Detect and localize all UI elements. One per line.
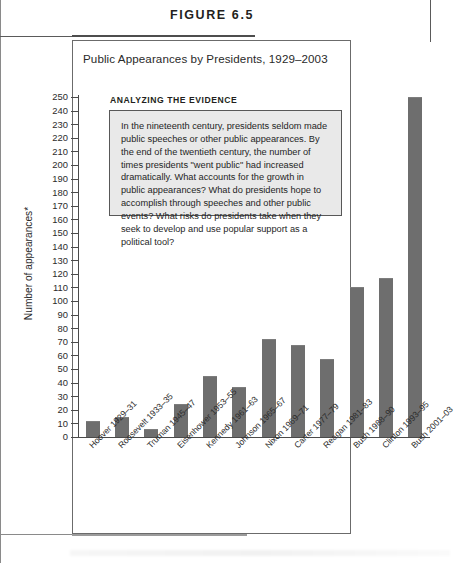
y-axis-tick bbox=[71, 260, 78, 261]
y-axis-tick-label: 90 bbox=[42, 310, 68, 319]
y-axis-tick bbox=[71, 315, 78, 316]
y-axis-tick-label: 190 bbox=[42, 174, 68, 183]
y-axis-tick bbox=[71, 355, 78, 356]
y-axis-tick-label: 0 bbox=[42, 432, 68, 441]
y-axis-tick-label: 250 bbox=[42, 92, 68, 101]
bar-chart: Number of appearances* 01020304050607080… bbox=[0, 0, 467, 563]
y-axis-tick-label: 150 bbox=[42, 228, 68, 237]
y-axis-tick-label: 50 bbox=[42, 364, 68, 373]
y-axis-tick bbox=[71, 206, 78, 207]
analyzing-the-evidence-box: In the nineteenth century, presidents se… bbox=[109, 110, 342, 216]
bar bbox=[408, 97, 422, 437]
y-axis-tick-label: 40 bbox=[42, 378, 68, 387]
y-axis-tick bbox=[71, 369, 78, 370]
y-axis-tick bbox=[71, 342, 78, 343]
y-axis-tick-label: 120 bbox=[42, 269, 68, 278]
y-axis-tick bbox=[71, 287, 78, 288]
y-axis-tick-label: 240 bbox=[42, 106, 68, 115]
y-axis-tick bbox=[71, 274, 78, 275]
y-axis-tick-label: 80 bbox=[42, 324, 68, 333]
y-axis-tick bbox=[71, 165, 78, 166]
y-axis-tick bbox=[71, 192, 78, 193]
y-axis-tick-label: 100 bbox=[42, 296, 68, 305]
y-axis-tick-label: 110 bbox=[42, 283, 68, 292]
y-axis-tick bbox=[71, 219, 78, 220]
y-axis-tick bbox=[71, 437, 78, 438]
y-axis-tick-label: 220 bbox=[42, 133, 68, 142]
y-axis-tick bbox=[71, 301, 78, 302]
y-axis-tick bbox=[71, 247, 78, 248]
y-axis-tick-label: 210 bbox=[42, 147, 68, 156]
y-axis-tick-label: 10 bbox=[42, 419, 68, 428]
y-axis-tick bbox=[71, 179, 78, 180]
y-axis-tick-label: 200 bbox=[42, 160, 68, 169]
y-axis-tick-label: 160 bbox=[42, 215, 68, 224]
y-axis-tick-label: 30 bbox=[42, 392, 68, 401]
y-axis-tick-label: 170 bbox=[42, 201, 68, 210]
y-axis-tick bbox=[71, 410, 78, 411]
page-bleed-artifact bbox=[70, 550, 450, 556]
y-axis-tick-label: 70 bbox=[42, 337, 68, 346]
y-axis-tick bbox=[71, 124, 78, 125]
y-axis-tick-label: 20 bbox=[42, 405, 68, 414]
y-axis-tick bbox=[71, 233, 78, 234]
y-axis-tick-label: 180 bbox=[42, 188, 68, 197]
y-axis-tick bbox=[71, 396, 78, 397]
y-axis-tick bbox=[71, 111, 78, 112]
y-axis-tick-label: 230 bbox=[42, 120, 68, 129]
y-axis-tick bbox=[71, 151, 78, 152]
y-axis-tick bbox=[71, 328, 78, 329]
analyzing-the-evidence-text: In the nineteenth century, presidents se… bbox=[121, 120, 330, 248]
y-axis-tick bbox=[71, 138, 78, 139]
y-axis-tick-label: 140 bbox=[42, 242, 68, 251]
y-axis-line bbox=[78, 95, 79, 438]
y-axis-tick bbox=[71, 383, 78, 384]
y-axis-tick-label: 130 bbox=[42, 256, 68, 265]
y-axis-tick-label: 60 bbox=[42, 351, 68, 360]
y-axis-title: Number of appearances* bbox=[23, 189, 34, 339]
analyzing-the-evidence-heading: ANALYZING THE EVIDENCE bbox=[110, 95, 237, 105]
y-axis-tick bbox=[71, 97, 78, 98]
y-axis-tick bbox=[71, 423, 78, 424]
